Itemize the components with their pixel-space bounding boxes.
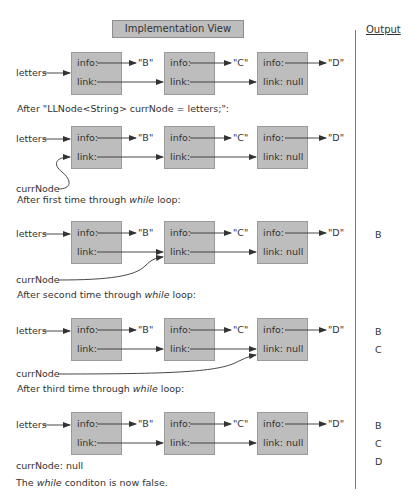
pointer-arrows [0, 0, 413, 501]
